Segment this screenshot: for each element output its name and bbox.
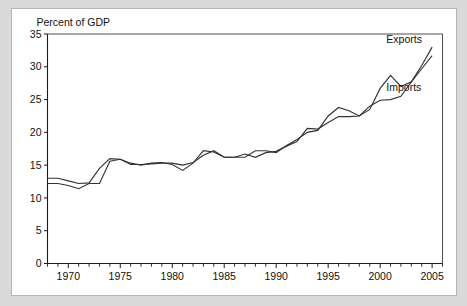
x-tick-label: 2005: [420, 270, 444, 282]
x-tick-label: 1980: [161, 270, 185, 282]
series-label-imports: Imports: [386, 81, 421, 93]
x-tick-label: 1970: [57, 270, 81, 282]
y-tick-label: 25: [30, 93, 42, 105]
figure-root: 0510152025303519701975198019851990199520…: [0, 0, 467, 306]
line-chart: 0510152025303519701975198019851990199520…: [12, 9, 456, 295]
y-tick-label: 10: [30, 192, 42, 204]
x-tick-label: 1990: [265, 270, 289, 282]
plot-frame: [48, 34, 443, 264]
x-tick-label: 1985: [213, 270, 237, 282]
x-tick-label: 1995: [316, 270, 340, 282]
series-line-exports: [48, 47, 433, 183]
y-tick-label: 0: [36, 257, 42, 269]
series-label-exports: Exports: [386, 33, 422, 45]
y-tick-label: 30: [30, 60, 42, 72]
figure-card: 0510152025303519701975198019851990199520…: [11, 8, 457, 296]
y-tick-label: 35: [30, 28, 42, 40]
x-tick-label: 1975: [109, 270, 133, 282]
y-tick-label: 5: [36, 224, 42, 236]
y-axis-title: Percent of GDP: [37, 16, 111, 28]
y-tick-label: 15: [30, 159, 42, 171]
x-tick-label: 2000: [368, 270, 392, 282]
y-tick-label: 20: [30, 126, 42, 138]
series-line-imports: [48, 56, 433, 189]
